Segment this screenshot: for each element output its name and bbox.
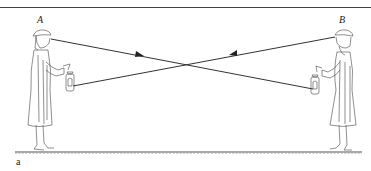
ray-a-to-b	[51, 39, 313, 89]
observer-a-figure	[28, 30, 74, 150]
ray-b-to-a	[73, 37, 335, 86]
arrow-left-icon	[229, 50, 237, 56]
diagram-canvas	[0, 0, 371, 171]
ground-line	[15, 152, 362, 153]
observer-b-figure	[311, 30, 356, 150]
arrow-right-icon	[135, 51, 144, 57]
